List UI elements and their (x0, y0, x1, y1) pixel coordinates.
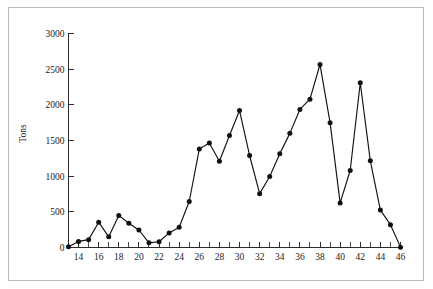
y-tick-label: 1500 (46, 136, 65, 146)
data-point (368, 158, 373, 163)
data-point (267, 174, 272, 179)
data-point (348, 168, 353, 173)
data-point (157, 239, 162, 244)
data-point (106, 234, 111, 239)
x-tick-label: 28 (215, 252, 225, 262)
data-point (86, 237, 91, 242)
y-axis-ticks (69, 34, 74, 248)
x-tick-label: 20 (134, 252, 144, 262)
data-point (237, 108, 242, 113)
data-point (227, 133, 232, 138)
y-tick-label: 1000 (46, 172, 65, 182)
x-tick-label: 24 (174, 252, 184, 262)
data-point (116, 213, 121, 218)
x-tick-label: 36 (295, 252, 305, 262)
data-point (96, 220, 101, 225)
data-point (187, 199, 192, 204)
data-point (297, 107, 302, 112)
x-tick-label: 26 (195, 252, 205, 262)
data-point (177, 225, 182, 230)
x-tick-label: 22 (154, 252, 164, 262)
y-axis-title: Tons (18, 124, 28, 143)
x-tick-label: 30 (235, 252, 245, 262)
data-point (126, 221, 131, 226)
data-series-line (69, 65, 401, 248)
x-tick-label: 32 (255, 252, 265, 262)
data-point (247, 153, 252, 158)
data-point (328, 120, 333, 125)
data-point (287, 131, 292, 136)
data-point (76, 239, 81, 244)
y-axis-tick-labels: 050010001500200025003000 (46, 29, 65, 253)
x-tick-label: 38 (315, 252, 325, 262)
y-tick-label: 2500 (46, 65, 65, 75)
data-point (207, 140, 212, 145)
x-tick-label: 46 (396, 252, 406, 262)
y-tick-label: 0 (60, 243, 65, 253)
chart-figure: 050010001500200025003000 141618202224262… (0, 0, 433, 289)
data-point (378, 208, 383, 213)
data-point (358, 80, 363, 85)
x-tick-label: 44 (376, 252, 386, 262)
x-axis-tick-labels: 1416182022242628303234363840424446 (74, 252, 406, 262)
data-point (217, 159, 222, 164)
x-tick-label: 16 (94, 252, 104, 262)
data-point (136, 228, 141, 233)
data-point (197, 147, 202, 152)
line-chart: 050010001500200025003000 141618202224262… (0, 0, 433, 289)
x-tick-label: 14 (74, 252, 84, 262)
x-tick-label: 34 (275, 252, 285, 262)
data-point (318, 62, 323, 67)
y-tick-label: 500 (50, 207, 65, 217)
x-tick-label: 42 (356, 252, 366, 262)
y-tick-label: 3000 (46, 29, 65, 39)
data-point (66, 244, 71, 249)
data-point (277, 151, 282, 156)
x-axis-ticks (69, 242, 401, 248)
data-point (257, 191, 262, 196)
data-point (398, 245, 403, 250)
x-tick-label: 40 (335, 252, 345, 262)
data-point (307, 97, 312, 102)
data-point (167, 230, 172, 235)
x-tick-label: 18 (114, 252, 124, 262)
data-point (388, 222, 393, 227)
y-tick-label: 2000 (46, 100, 65, 110)
data-point (338, 200, 343, 205)
data-point (146, 240, 151, 245)
